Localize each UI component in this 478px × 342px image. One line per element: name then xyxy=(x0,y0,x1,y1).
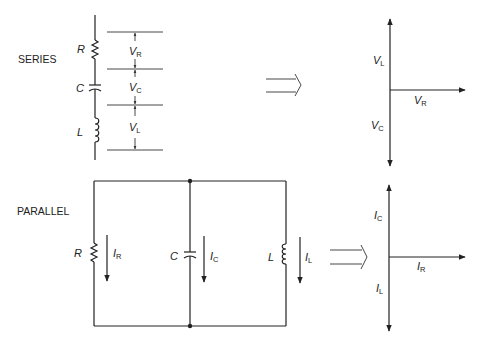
phasor-vl-label: VL xyxy=(373,54,385,68)
inductor-icon xyxy=(95,118,99,142)
vr-label: VR xyxy=(129,45,142,59)
ic-label: IC xyxy=(210,250,219,264)
phasor-ic-label: IC xyxy=(374,209,383,223)
vc-label: VC xyxy=(129,81,142,95)
parallel-label: PARALLEL xyxy=(17,205,69,217)
series-transform-arrow-icon xyxy=(266,74,301,96)
resistor-icon xyxy=(92,40,98,59)
parallel-section: PARALLEL R xyxy=(17,179,465,331)
series-l-label: L xyxy=(77,126,83,138)
inductor-icon xyxy=(282,244,286,264)
parallel-l-label: L xyxy=(268,251,274,263)
phasor-ir-label: IR xyxy=(417,260,426,274)
series-r-label: R xyxy=(77,43,85,55)
series-c-label: C xyxy=(76,82,84,94)
phasor-vc-label: VC xyxy=(371,119,384,133)
vl-label: VL xyxy=(129,121,141,135)
ir-label: IR xyxy=(113,247,122,261)
parallel-transform-arrow-icon xyxy=(330,245,367,269)
series-section: SERIES R C L xyxy=(18,15,465,166)
phasor-il-label: IL xyxy=(376,282,383,296)
parallel-r-label: R xyxy=(74,247,82,259)
resistor-icon xyxy=(91,243,97,262)
series-label: SERIES xyxy=(18,53,57,65)
il-label: IL xyxy=(305,251,312,265)
parallel-phasor xyxy=(389,185,465,331)
series-circuit xyxy=(89,15,101,160)
phasor-vr-label: VR xyxy=(414,94,427,108)
rlc-phasor-diagram: SERIES R C L xyxy=(0,0,478,342)
series-phasor xyxy=(390,19,465,166)
parallel-c-label: C xyxy=(170,250,178,262)
